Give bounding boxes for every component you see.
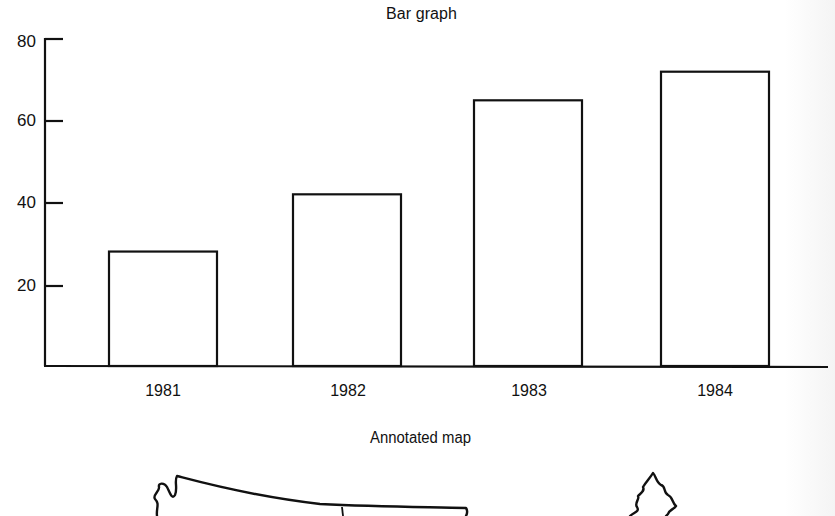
y-tick-label-80: 80 bbox=[0, 32, 36, 52]
map-right-landmass-outline bbox=[630, 473, 676, 516]
bar-1984 bbox=[661, 72, 769, 366]
map-outline bbox=[0, 440, 835, 516]
bar-chart-plot bbox=[0, 0, 835, 400]
y-tick-label-60: 60 bbox=[0, 111, 36, 131]
map-left-landmass-outline bbox=[154, 476, 467, 516]
bar-1983 bbox=[474, 100, 582, 366]
x-tick-label-1983: 1983 bbox=[489, 382, 569, 400]
x-tick-label-1984: 1984 bbox=[675, 382, 755, 400]
y-tick-label-40: 40 bbox=[0, 193, 36, 213]
y-tick-label-20: 20 bbox=[0, 276, 36, 296]
x-tick-label-1981: 1981 bbox=[123, 382, 203, 400]
bar-1982 bbox=[293, 194, 401, 366]
x-tick-label-1982: 1982 bbox=[308, 382, 388, 400]
map-internal-border bbox=[342, 507, 343, 516]
bars-group bbox=[109, 72, 769, 366]
bar-1981 bbox=[109, 252, 217, 366]
